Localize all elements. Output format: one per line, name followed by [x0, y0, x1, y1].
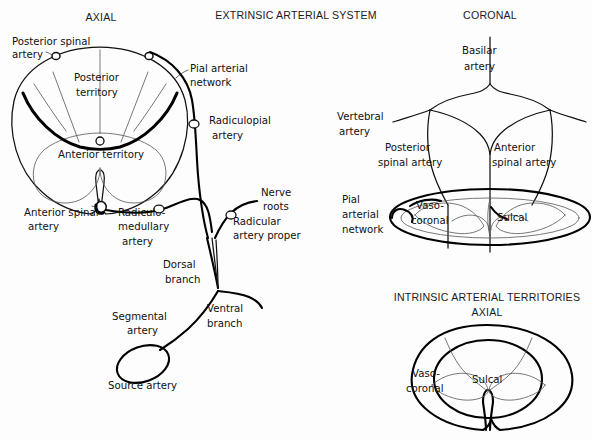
coronal-pial-network-hook-left [392, 209, 413, 222]
label-radiculomedullary-artery-line2: medullary [118, 221, 169, 232]
label-coronal-anterior-spinal-artery-line2: spinal artery [492, 157, 556, 168]
posterior-septum-1 [34, 84, 66, 131]
extrinsic-arterial-system-diagram: EXTRINSIC ARTERIAL SYSTEM AXIAL CORONAL … [0, 0, 592, 439]
axial-cord-group: Posterior spinal artery Posterior territ… [12, 36, 302, 391]
label-coronal-vertebral-artery-line1: Vertebral [337, 111, 384, 122]
label-dorsal-branch-line1: Dorsal [163, 259, 196, 270]
label-radiculomedullary-artery-line3: artery [122, 236, 153, 247]
figure-canvas: EXTRINSIC ARTERIAL SYSTEM AXIAL CORONAL … [0, 0, 592, 439]
label-intrinsic-vasocoronal-line2: coronal [406, 383, 444, 394]
label-ventral-branch-line2: branch [207, 318, 242, 329]
posterior-septum-3 [121, 72, 148, 142]
label-coronal-vertebral-artery-line2: artery [339, 126, 370, 137]
vertebral-artery-left [393, 110, 430, 122]
leader-posterior-spinal-artery [46, 52, 52, 55]
label-posterior-spinal-artery-line2: artery [12, 49, 43, 60]
radicular-artery-proper-ring [226, 211, 236, 219]
label-pial-arterial-network-line1: Pial arterial [190, 63, 248, 74]
coronal-sulcal-territory-left [452, 215, 489, 230]
label-coronal-anterior-spinal-artery-line1: Anterior [494, 142, 536, 153]
vertebral-artery-right [550, 110, 586, 122]
label-coronal-posterior-spinal-artery-line1: Posterior [385, 142, 431, 153]
label-intrinsic-vasocoronal-line1: Vaso- [412, 368, 440, 379]
label-coronal-vasocoronal-line2: coronal [411, 215, 449, 226]
coronal-group: Basilar artery Vertebral artery Posterio… [337, 37, 590, 252]
label-segmental-artery-line1: Segmental [112, 311, 167, 322]
label-coronal-pial-network-line3: network [342, 224, 383, 235]
label-posterior-spinal-artery-line1: Posterior spinal [12, 36, 90, 47]
label-radicular-artery-proper-line2: artery proper [233, 230, 302, 241]
label-posterior-territory-line1: Posterior [74, 72, 120, 83]
label-coronal-vasocoronal-line1: Vaso- [416, 200, 444, 211]
label-radicular-artery-proper-line1: Radicular [233, 216, 282, 227]
basilar-bifurcation-right [490, 84, 550, 110]
radiculomedullary-artery-ring [154, 205, 164, 213]
intrinsic-territories-group: Vaso- coronal Sulcal [406, 325, 572, 430]
label-pial-arterial-network-line2: network [190, 77, 231, 88]
label-coronal-basilar-artery-line2: artery [464, 61, 495, 72]
posterior-septum-4 [134, 84, 166, 131]
label-anterior-spinal-artery-line1: Anterior spinal [24, 207, 99, 218]
label-anterior-territory: Anterior territory [58, 149, 144, 160]
label-nerve-roots-line1: Nerve [261, 187, 291, 198]
main-title: EXTRINSIC ARTERIAL SYSTEM [215, 9, 377, 21]
label-coronal-posterior-spinal-artery-line2: spinal artery [378, 157, 442, 168]
label-radiculopial-artery-line1: Radiculopial [209, 115, 271, 126]
label-coronal-basilar-artery-line1: Basilar [462, 45, 497, 56]
label-nerve-roots-line2: roots [263, 201, 289, 212]
basilar-bifurcation-left [430, 84, 490, 110]
anterior-spinal-converge-left [430, 110, 490, 154]
label-coronal-sulcal: Sulcal [497, 212, 527, 223]
label-coronal-pial-network-line1: Pial [342, 194, 360, 205]
label-intrinsic-sulcal: Sulcal [472, 374, 502, 385]
label-dorsal-branch-line2: branch [165, 274, 200, 285]
panel-title-coronal: CORONAL [463, 9, 517, 21]
panel-title-axial-left: AXIAL [85, 11, 116, 23]
label-segmental-artery-line2: artery [127, 325, 158, 336]
central-canal-ring [96, 137, 104, 145]
posterior-spinal-artery-ring-left [52, 52, 60, 59]
label-coronal-pial-network-line2: arterial [342, 209, 379, 220]
panel-title-intrinsic: INTRINSIC ARTERIAL TERRITORIES [394, 291, 580, 303]
label-ventral-branch-line1: Ventral [207, 303, 243, 314]
label-posterior-territory-line2: territory [76, 87, 118, 98]
radiculopial-artery-ring [189, 120, 199, 128]
panel-subtitle-intrinsic-axial: AXIAL [471, 306, 502, 318]
label-radiculopial-artery-line2: artery [212, 130, 243, 141]
label-anterior-spinal-artery-line2: artery [28, 221, 59, 232]
